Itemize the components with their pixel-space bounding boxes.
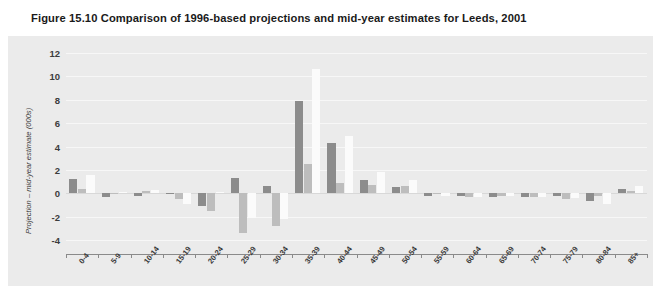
- gridline: [66, 240, 647, 241]
- x-axis-tick-label: 25-29: [239, 245, 258, 266]
- bar: [392, 187, 400, 193]
- bar: [594, 193, 602, 195]
- bar: [231, 178, 239, 193]
- bar: [562, 193, 570, 199]
- bar: [441, 193, 449, 195]
- bar: [69, 179, 77, 193]
- bar: [216, 192, 224, 193]
- x-axis-tick-label: 45-49: [368, 245, 387, 266]
- x-axis-tick: [163, 254, 164, 258]
- bar: [618, 189, 626, 194]
- y-axis-tick-label: 10: [20, 71, 60, 82]
- x-axis-tick: [582, 254, 583, 258]
- bar: [142, 191, 150, 193]
- bar: [553, 193, 561, 195]
- bar: [239, 193, 247, 233]
- x-axis-tick: [421, 254, 422, 258]
- x-axis-tick: [227, 254, 228, 258]
- gridline: [66, 123, 647, 124]
- bar: [635, 186, 643, 193]
- x-axis-tick: [550, 254, 551, 258]
- y-axis-tick-label: 2: [20, 164, 60, 175]
- bar: [304, 164, 312, 193]
- gridline: [66, 217, 647, 218]
- bar: [474, 193, 482, 197]
- bar: [345, 136, 353, 193]
- x-axis-tick-label: 85+: [626, 250, 641, 266]
- x-axis-tick: [357, 254, 358, 258]
- figure-page: Figure 15.10 Comparison of 1996-based pr…: [0, 0, 661, 293]
- bar: [207, 193, 215, 211]
- bar: [489, 193, 497, 197]
- bar: [134, 193, 142, 195]
- x-axis-tick-label: 80-84: [594, 245, 613, 266]
- bar: [198, 193, 206, 206]
- bar: [166, 193, 174, 194]
- bar: [457, 193, 465, 195]
- x-axis-tick: [518, 254, 519, 258]
- y-axis-tick-label: 12: [20, 48, 60, 59]
- bar: [409, 180, 417, 193]
- bar: [433, 193, 441, 194]
- y-axis-tick-label: 4: [20, 141, 60, 152]
- x-axis-tick-label: 35-39: [303, 245, 322, 266]
- bar: [368, 185, 376, 193]
- gridline: [66, 76, 647, 77]
- bar: [151, 190, 159, 194]
- bar: [360, 180, 368, 193]
- gridline: [66, 170, 647, 171]
- bar: [295, 101, 303, 193]
- x-axis-tick: [260, 254, 261, 258]
- bar: [586, 193, 594, 201]
- bar: [175, 193, 183, 199]
- x-axis-tick-label: 75-79: [561, 245, 580, 266]
- x-axis-tick-label: 60-64: [464, 245, 483, 266]
- bar: [506, 193, 514, 195]
- bar: [272, 193, 280, 226]
- y-axis-tick-label: -4: [20, 235, 60, 246]
- bar: [183, 193, 191, 204]
- gridline: [66, 100, 647, 101]
- x-axis-tick: [615, 254, 616, 258]
- x-axis-tick-label: 30-34: [271, 245, 290, 266]
- x-axis-tick: [647, 254, 648, 258]
- x-axis-tick: [453, 254, 454, 258]
- bar: [377, 172, 385, 193]
- x-axis-tick: [486, 254, 487, 258]
- y-axis-tick-label: -2: [20, 211, 60, 222]
- gridline: [66, 53, 647, 54]
- bar: [312, 69, 320, 193]
- bar: [102, 193, 110, 197]
- x-axis-tick: [98, 254, 99, 258]
- x-axis-tick: [195, 254, 196, 258]
- bar: [424, 193, 432, 195]
- bar: [627, 191, 635, 193]
- bar: [327, 143, 335, 193]
- bar: [603, 193, 611, 204]
- x-axis-tick: [292, 254, 293, 258]
- plot-area: -4-2024681012: [66, 53, 647, 240]
- y-axis-tick-label: 0: [20, 188, 60, 199]
- bar: [248, 193, 256, 218]
- x-axis-tick-label: 10-14: [142, 245, 161, 266]
- y-axis-tick-label: 6: [20, 118, 60, 129]
- x-axis-tick: [66, 254, 67, 258]
- bar: [119, 192, 127, 193]
- bar: [497, 193, 505, 195]
- figure-title: Figure 15.10 Comparison of 1996-based pr…: [31, 12, 527, 24]
- x-axis-tick-label: 70-74: [529, 245, 548, 266]
- x-axis-tick-label: 40-44: [335, 245, 354, 266]
- x-axis-tick-label: 15-19: [174, 245, 193, 266]
- bar: [571, 193, 579, 198]
- x-axis-tick: [131, 254, 132, 258]
- bar: [538, 193, 546, 197]
- x-axis-tick-label: 55-59: [432, 245, 451, 266]
- bar: [78, 189, 86, 194]
- x-axis-tick-label: 50-54: [400, 245, 419, 266]
- bar: [336, 183, 344, 194]
- bar: [86, 175, 94, 194]
- bar: [280, 193, 288, 219]
- gridline: [66, 147, 647, 148]
- bar: [521, 193, 529, 197]
- x-axis-tick: [389, 254, 390, 258]
